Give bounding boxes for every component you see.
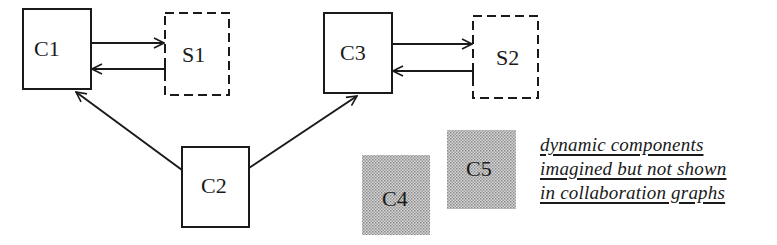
node-s2: S2 <box>473 16 538 98</box>
node-c3-label: C3 <box>340 40 366 65</box>
node-s2-label: S2 <box>496 45 519 70</box>
note-line-1: dynamic components <box>540 133 727 157</box>
node-c2: C2 <box>182 147 249 227</box>
node-c2-label: C2 <box>201 173 227 198</box>
node-c4: C4 <box>362 155 430 235</box>
edge-c2-to-c1 <box>76 92 182 170</box>
edge-c2-to-c3 <box>249 96 357 168</box>
node-c1-label: C1 <box>34 36 60 61</box>
dynamic-components-note: dynamic components imagined but not show… <box>540 133 727 205</box>
note-line-3: in collaboration graphs <box>540 181 727 205</box>
node-s1: S1 <box>165 13 229 95</box>
node-c1: C1 <box>23 9 91 89</box>
node-c5-label: C5 <box>466 156 492 181</box>
node-s1-label: S1 <box>182 42 205 67</box>
note-line-2: imagined but not shown <box>540 157 727 181</box>
node-c5: C5 <box>447 130 516 209</box>
node-c4-label: C4 <box>382 186 408 211</box>
node-c3: C3 <box>324 13 392 93</box>
collaboration-diagram: C1 S1 C3 S2 C2 C4 C5 <box>0 0 777 245</box>
